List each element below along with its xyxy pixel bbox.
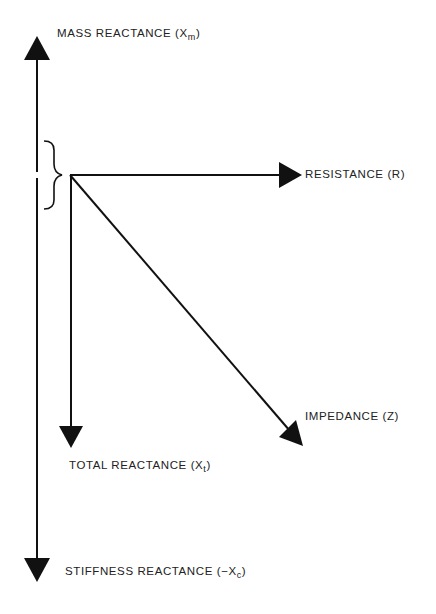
label-subscript: m [188, 32, 196, 42]
label-text: TOTAL REACTANCE (X [69, 459, 203, 471]
arrow-up-icon [24, 36, 50, 60]
total-reactance-label: TOTAL REACTANCE (Xt) [69, 459, 211, 471]
impedance-label: IMPEDANCE (Z) [305, 410, 399, 422]
brace-icon [44, 141, 62, 209]
impedance-diagram [0, 0, 436, 614]
label-text: STIFFNESS REACTANCE (−X [65, 565, 237, 577]
mass-reactance-label: MASS REACTANCE (Xm) [57, 27, 200, 39]
label-close: ) [206, 459, 210, 471]
resistance-label: RESISTANCE (R) [305, 168, 405, 180]
label-text: RESISTANCE (R) [305, 168, 405, 180]
stiffness-reactance-label: STIFFNESS REACTANCE (−Xc) [65, 565, 246, 577]
impedance-vector [70, 175, 290, 431]
label-close: ) [196, 27, 200, 39]
label-text: MASS REACTANCE (X [57, 27, 188, 39]
label-text: IMPEDANCE (Z) [305, 410, 399, 422]
arrow-down-icon [59, 426, 83, 448]
label-subscript: t [203, 464, 206, 474]
label-close: ) [242, 565, 246, 577]
arrow-right-icon [279, 162, 302, 188]
label-subscript: c [237, 570, 242, 580]
arrow-down-icon [24, 558, 50, 582]
